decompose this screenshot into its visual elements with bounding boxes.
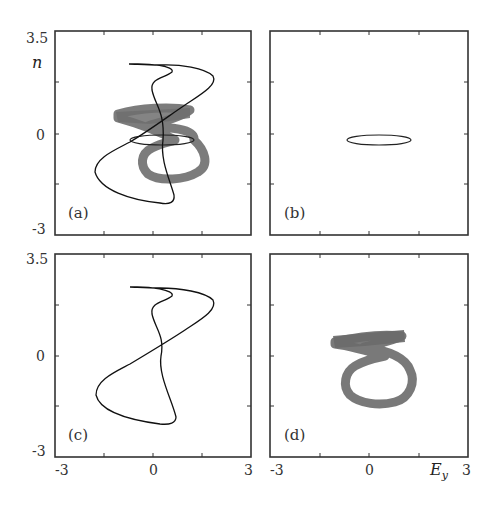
x-tick-left-c: -3 xyxy=(55,462,69,478)
panel-label-b: (b) xyxy=(284,204,305,222)
panel-a: 3.5 n 0 -3 (a) xyxy=(26,30,251,237)
y-tick-bottom-a: -3 xyxy=(32,221,46,237)
x-axis-var-sub: y xyxy=(441,469,449,482)
figure: 3.5 n 0 -3 (a) (b) 3.5 0 -3 -3 0 3 ( xyxy=(0,0,497,506)
torus-band-d xyxy=(335,335,412,404)
x-tick-right-d: 3 xyxy=(462,462,471,478)
limit-cycle-c xyxy=(96,287,214,424)
panel-label-d: (d) xyxy=(284,426,305,444)
y-tick-top-c: 3.5 xyxy=(26,251,48,267)
y-axis-var-a: n xyxy=(32,53,42,72)
y-tick-mid-a: 0 xyxy=(36,127,45,143)
panel-b: (b) xyxy=(270,31,468,235)
x-tick-mid-d: 0 xyxy=(365,462,374,478)
ellipse-b xyxy=(347,135,411,145)
y-tick-bottom-c: -3 xyxy=(32,443,46,459)
x-axis-var: Ey xyxy=(429,460,449,482)
y-tick-top-a: 3.5 xyxy=(26,30,48,46)
panel-label-c: (c) xyxy=(68,426,88,444)
y-tick-mid-c: 0 xyxy=(36,348,45,364)
panel-c: 3.5 0 -3 -3 0 3 (c) xyxy=(26,251,253,478)
panel-d: -3 0 Ey 3 (d) xyxy=(270,254,471,482)
panel-label-a: (a) xyxy=(68,204,89,222)
x-tick-right-c: 3 xyxy=(244,462,253,478)
x-tick-left-d: -3 xyxy=(270,462,284,478)
x-tick-mid-c: 0 xyxy=(149,462,158,478)
x-axis-var-main: E xyxy=(429,460,442,479)
